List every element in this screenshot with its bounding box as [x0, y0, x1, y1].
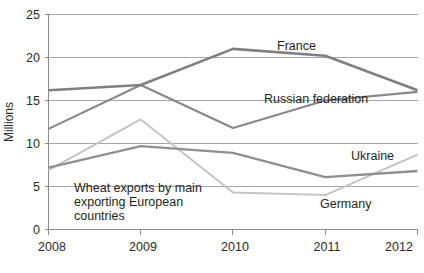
ytick-label-15: 15 — [26, 94, 40, 108]
series-labels-group: France Russian federation Ukraine German… — [264, 39, 394, 211]
ytick-label-25: 25 — [26, 8, 40, 22]
ytick-label-20: 20 — [26, 51, 40, 65]
annotation-line-3: countries — [74, 209, 125, 223]
ytick-label-5: 5 — [33, 180, 40, 194]
xtick-label-2010: 2010 — [221, 240, 249, 254]
ytick-label-0: 0 — [33, 223, 40, 237]
annotation-line-2: exporting European — [74, 195, 183, 209]
xtick-label-2012: 2012 — [385, 240, 413, 254]
series-label-russian-federation: Russian federation — [264, 92, 368, 106]
series-line-france — [49, 49, 418, 90]
xtick-label-2009: 2009 — [129, 240, 157, 254]
xtick-label-2011: 2011 — [314, 240, 341, 254]
series-lines-group — [49, 49, 418, 195]
xtick-label-2008: 2008 — [38, 240, 66, 254]
annotation-line-1: Wheat exports by main — [74, 181, 202, 195]
chart-annotation: Wheat exports by main exporting European… — [74, 181, 202, 223]
chart-canvas: 25 20 15 10 5 0 2008 2009 2010 2011 2012… — [0, 0, 424, 273]
y-axis-title: Millions — [2, 102, 16, 142]
ytick-label-10: 10 — [26, 137, 40, 151]
x-tick-labels: 2008 2009 2010 2011 2012 — [38, 240, 413, 254]
series-label-france: France — [277, 39, 316, 53]
series-label-germany: Germany — [320, 197, 372, 211]
wheat-exports-line-chart: 25 20 15 10 5 0 2008 2009 2010 2011 2012… — [0, 0, 424, 273]
y-tick-labels: 25 20 15 10 5 0 — [26, 8, 40, 237]
series-label-ukraine: Ukraine — [351, 149, 394, 163]
